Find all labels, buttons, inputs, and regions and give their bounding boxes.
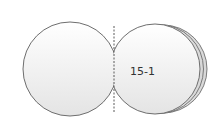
circle-label: 15-1 [130,65,155,78]
left-circle [23,22,117,116]
two-circle-diagram: 15-1 [0,0,216,125]
right-circle [110,24,200,114]
